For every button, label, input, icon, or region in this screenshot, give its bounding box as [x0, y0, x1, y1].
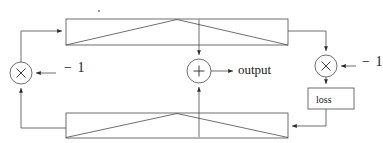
scan-artifact-speck — [98, 10, 100, 12]
top-network-block — [66, 19, 288, 45]
output-label: output — [238, 63, 271, 76]
diagram-svg — [0, 0, 383, 143]
diagram-canvas: × × + output loss − 1 − 1 — [0, 0, 383, 143]
edge-loss-to-bottom-block — [292, 109, 326, 126]
negative-one-label-left: − 1 — [64, 61, 85, 75]
negative-one-label-right: − 1 — [362, 55, 383, 69]
edge-bottom-block-to-mul-left — [21, 88, 66, 128]
edge-mul-left-to-top-block — [21, 31, 62, 62]
bottom-network-block — [66, 113, 288, 138]
edge-top-block-to-mul-right — [288, 31, 326, 51]
loss-label: loss — [316, 95, 332, 105]
